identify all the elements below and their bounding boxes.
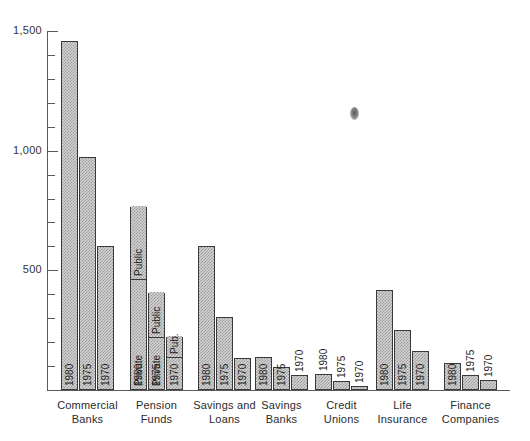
bar-year-label: 1975 (83, 364, 93, 386)
bar[interactable]: 1980 (376, 290, 393, 390)
bar-year-label: 1970 (295, 350, 305, 372)
segment-label: Public (134, 249, 144, 276)
bar-segment-public[interactable]: Public (131, 206, 146, 280)
bar[interactable] (351, 386, 368, 390)
bar[interactable]: 1970 (97, 246, 114, 390)
bar-segment-public[interactable]: Pub. (167, 336, 182, 358)
y-tick-minor (48, 390, 55, 391)
bar-segment-public[interactable]: Public (149, 292, 164, 337)
bar[interactable]: 1980 (198, 246, 215, 390)
bar-group: 198019751970 (315, 31, 368, 390)
bar-group: 198019751970 (444, 31, 497, 390)
bar-year-label: 1980 (448, 364, 458, 386)
x-axis-baseline (47, 390, 510, 391)
bar-year-label: 1970 (484, 355, 494, 377)
category-label: FinanceCompanies (421, 398, 521, 426)
bar[interactable]: Pub.1970 (166, 337, 183, 390)
bar[interactable] (291, 375, 308, 390)
category-label-line: Companies (421, 412, 521, 426)
bar[interactable]: 1970 (234, 358, 251, 390)
bar-group: 198019751970 (255, 31, 308, 390)
bar-year-label: 1970 (238, 364, 248, 386)
bar[interactable]: 1970 (412, 351, 429, 390)
bar-group: 198019751970 (198, 31, 251, 390)
bar[interactable] (480, 380, 497, 390)
plot-area: 198019751970PrivatePublic1980PrivatePubl… (47, 31, 510, 390)
bar[interactable]: 1975 (394, 330, 411, 390)
bar[interactable] (315, 374, 332, 390)
bar[interactable]: 1975 (273, 367, 290, 390)
bar[interactable] (462, 375, 479, 390)
bar-year-label: 1975 (277, 364, 287, 386)
scan-artifact-smudge (350, 107, 359, 120)
bar-year-label: 1970 (170, 364, 180, 386)
bar-year-label: 1970 (416, 364, 426, 386)
bar-year-label: 1970 (101, 364, 111, 386)
bar-year-label: 1975 (466, 350, 476, 372)
bar-year-label: 1980 (380, 364, 390, 386)
bar[interactable] (333, 381, 350, 390)
bar[interactable]: 1980 (444, 363, 461, 390)
bar-year-label: 1970 (355, 361, 365, 383)
y-axis-tick-label: 500 (0, 263, 42, 275)
bar-year-label: 1980 (259, 364, 269, 386)
segment-label: Pub. (170, 333, 180, 354)
bar[interactable]: 1980 (255, 357, 272, 390)
bar[interactable]: PrivatePublic1980 (130, 207, 147, 390)
category-label-line: Finance (421, 398, 521, 412)
bar-chart: 5001,0001,500 198019751970PrivatePublic1… (0, 0, 530, 441)
bar-year-label: 1975 (398, 364, 408, 386)
bar-group: 198019751970 (376, 31, 429, 390)
bar-year-label: 1980 (65, 364, 75, 386)
bar-year-label: 1980 (319, 348, 329, 370)
bar[interactable]: 1975 (79, 157, 96, 390)
bar-year-label: 1975 (220, 364, 230, 386)
bar-year-label: 1980 (202, 364, 212, 386)
bar-year-label: 1975 (337, 356, 347, 378)
bar[interactable]: PrivatePublic1975 (148, 293, 165, 390)
y-axis-tick-label: 1,500 (0, 24, 42, 36)
bar-year-label: 1975 (152, 364, 162, 386)
y-axis-tick-label: 1,000 (0, 144, 42, 156)
bar-year-label: 1980 (134, 364, 144, 386)
bar[interactable]: 1975 (216, 317, 233, 390)
bar-group: 198019751970 (61, 31, 114, 390)
bar-group: PrivatePublic1980PrivatePublic1975Pub.19… (130, 31, 183, 390)
segment-label: Public (152, 306, 162, 333)
bar[interactable]: 1980 (61, 41, 78, 390)
